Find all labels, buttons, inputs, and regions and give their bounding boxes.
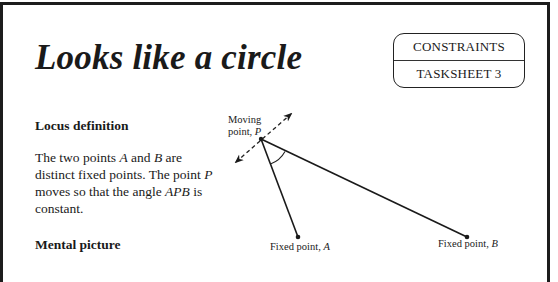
angle-apb-arc — [271, 152, 286, 165]
point-a-dot — [296, 235, 301, 240]
moving-point-label: Moving point, P — [228, 114, 261, 138]
fixed-point-b-label: Fixed point, B — [438, 238, 498, 250]
fixed-point-a-label: Fixed point, A — [270, 241, 330, 253]
